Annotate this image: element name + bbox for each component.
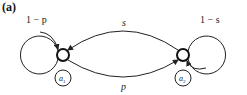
edge-s-arrow: [68, 31, 178, 50]
edge-p: p: [68, 60, 178, 92]
self-loop-2-arrow: [187, 61, 206, 69]
node-2-label-group: a2: [175, 70, 191, 86]
node-2: [177, 49, 189, 61]
edge-s: s: [68, 17, 178, 50]
self-loop-1: 1 − p: [20, 14, 58, 74]
node-1: [57, 49, 69, 61]
node-1-label-group: a1: [55, 70, 71, 86]
self-loop-2-label: 1 − s: [200, 14, 220, 25]
edge-p-label: p: [120, 81, 126, 92]
edge-p-arrow: [68, 60, 178, 77]
diagram-svg: (a) 1 − p 1 − s s p a1 a2: [0, 0, 247, 95]
self-loop-1-arrow: [40, 32, 58, 49]
self-loop-1-label: 1 − p: [26, 14, 47, 25]
markov-chain-diagram: (a) 1 − p 1 − s s p a1 a2: [0, 0, 247, 95]
self-loop-1-curve: [20, 36, 58, 74]
self-loop-2: 1 − s: [187, 14, 226, 74]
panel-label: (a): [2, 0, 16, 14]
edge-s-label: s: [122, 17, 126, 28]
